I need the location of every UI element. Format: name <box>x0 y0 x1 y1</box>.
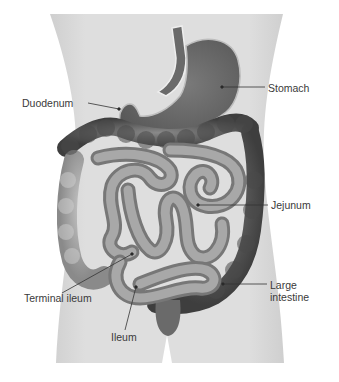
label-stomach: Stomach <box>268 82 309 94</box>
label-large-intestine-line2: intestine <box>270 291 309 303</box>
label-large-intestine-line1: Large <box>270 279 297 291</box>
label-duodenum: Duodenum <box>22 97 73 109</box>
label-ileum: Ileum <box>111 331 137 343</box>
label-terminal-ileum: Terminal ileum <box>24 292 92 304</box>
label-jejunum: Jejunum <box>271 199 311 211</box>
anatomy-diagram: Duodenum Stomach Jejunum Large intestine… <box>0 0 339 382</box>
